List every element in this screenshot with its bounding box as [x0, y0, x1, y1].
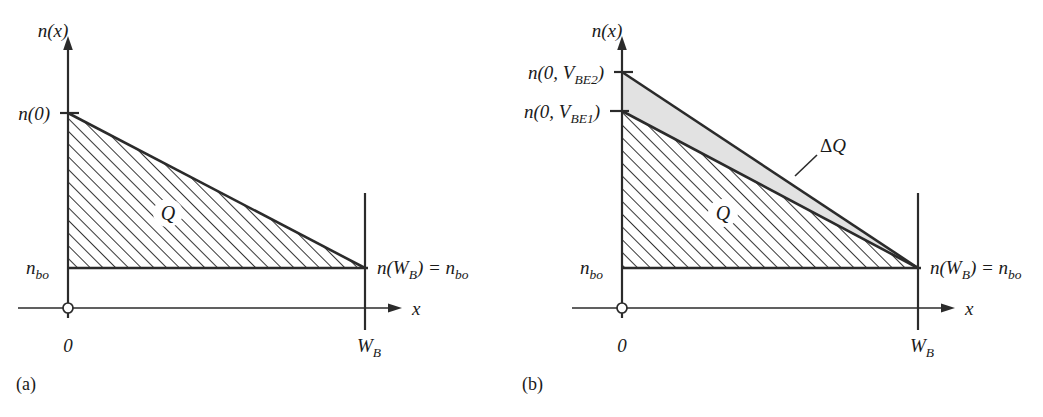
y-tick-label-vbe2-sub-b: BE2 — [574, 72, 597, 87]
right-label-mid-a: ) = n — [416, 257, 455, 279]
right-label-sub2-a: bo — [455, 267, 469, 282]
right-label-pre-a: n(W — [377, 257, 411, 279]
y-tick-label-nbo-base-b: n — [580, 257, 590, 278]
y-axis-label-a: n(x) — [38, 20, 69, 42]
x-axis-label-b: x — [964, 298, 974, 319]
region-label-q-b: Q — [716, 202, 731, 224]
delta-q-letter-b: Q — [832, 135, 846, 156]
x-tick-label-wb-sub-b: B — [926, 345, 934, 360]
panel-caption-b: (b) — [522, 374, 543, 395]
y-tick-label-vbe2-pre-b: n(0, V — [528, 62, 577, 84]
origin-marker-a — [63, 303, 73, 313]
region-label-q-a: Q — [161, 202, 176, 224]
y-axis-label-b: n(x) — [592, 20, 623, 42]
right-label-pre-b: n(W — [930, 257, 964, 279]
x-tick-label-wb-sub-a: B — [373, 345, 381, 360]
origin-label-b: 0 — [617, 335, 627, 356]
y-tick-label-vbe1-post-b: ) — [593, 101, 600, 123]
x-axis-label-a: x — [411, 298, 421, 319]
panel-caption-a: (a) — [16, 374, 36, 395]
figure-container: n(x) n(0) nbo Q n(WB) = nbo x 0 WB (a) — [0, 0, 1043, 417]
y-tick-label-nbo-sub-b: bo — [590, 267, 604, 282]
right-label-sub1-a: B — [409, 267, 417, 282]
y-tick-label-nbo-sub-a: bo — [36, 267, 50, 282]
region-label-delta-q-b: ΔQ — [820, 135, 846, 156]
y-tick-label-vbe1-sub-b: BE1 — [570, 111, 593, 126]
origin-label-a: 0 — [63, 335, 73, 356]
right-label-sub2-b: bo — [1008, 267, 1022, 282]
right-label-mid-b: ) = n — [969, 257, 1008, 279]
right-label-sub1-b: B — [962, 267, 970, 282]
origin-marker-b — [617, 303, 627, 313]
y-tick-label-nbo-base-a: n — [26, 257, 36, 278]
carrier-concentration-figure: n(x) n(0) nbo Q n(WB) = nbo x 0 WB (a) — [0, 0, 1043, 417]
delta-symbol-b: Δ — [820, 135, 832, 156]
y-tick-label-n0-a: n(0) — [18, 103, 50, 125]
y-tick-label-vbe1-pre-b: n(0, V — [524, 101, 573, 123]
y-tick-label-vbe2-post-b: ) — [597, 62, 604, 84]
